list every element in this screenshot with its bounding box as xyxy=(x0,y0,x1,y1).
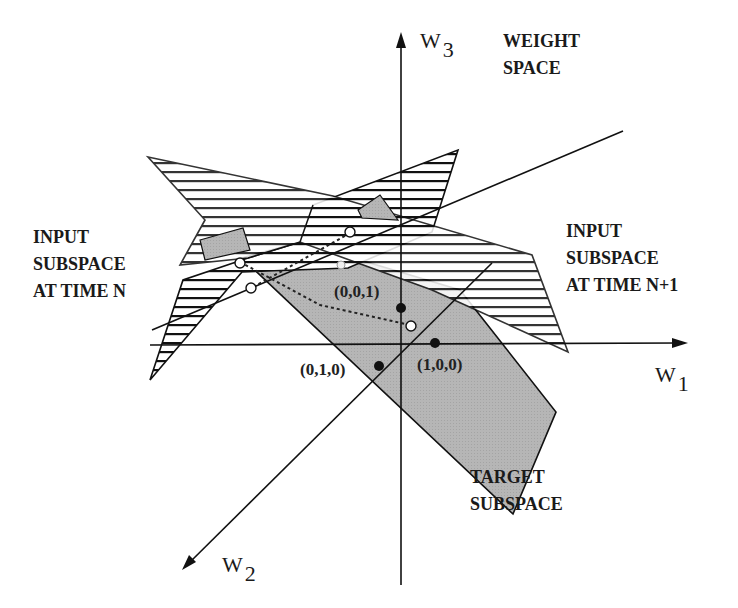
label-point-010: (0,1,0) xyxy=(300,360,345,380)
point-010 xyxy=(374,361,384,371)
label-point-001: (0,0,1) xyxy=(334,282,379,302)
w3-arrowhead xyxy=(396,32,406,48)
label-point-100: (1,0,0) xyxy=(417,355,462,375)
label-input-subspace-n1: INPUT SUBSPACE AT TIME N+1 xyxy=(566,218,678,299)
label-weight-space: WEIGHT SPACE xyxy=(503,28,580,82)
axis-label-w1: W1 xyxy=(655,362,689,397)
point-100 xyxy=(430,338,440,348)
weight-space-diagram: W3 W1 W2 WEIGHT SPACE INPUT SUBSPACE AT … xyxy=(0,0,738,608)
point-001 xyxy=(396,303,406,313)
label-input-subspace-n: INPUT SUBSPACE AT TIME N xyxy=(33,224,126,305)
w1-arrowhead xyxy=(672,338,688,348)
axis-label-w2: W2 xyxy=(222,552,256,587)
label-target-subspace: TARGET SUBSPACE xyxy=(470,464,563,518)
axis-label-w3: W3 xyxy=(420,28,454,63)
